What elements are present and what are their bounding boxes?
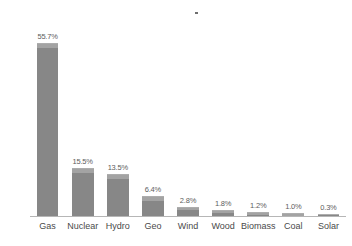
category-tick: Wind	[170, 219, 205, 233]
bar-value-label: 0.3%	[320, 203, 336, 212]
bar-slot: 1.2%	[241, 6, 276, 216]
bar-gas	[37, 43, 59, 216]
category-tick: Wood	[206, 219, 241, 233]
bar-value-label: 1.8%	[215, 199, 231, 208]
category-tick: Nuclear	[65, 219, 100, 233]
category-tick: Biomass	[241, 219, 276, 233]
category-label-wood: Wood	[206, 219, 241, 233]
bar-nuclear	[72, 168, 94, 216]
bar-slot: 55.7%	[30, 6, 65, 216]
category-tick: Hydro	[100, 219, 135, 233]
bar-column: 1.2%	[247, 201, 269, 216]
bar-column: 13.5%	[107, 163, 129, 216]
category-label-wind: Wind	[170, 219, 205, 233]
category-label-solar: Solar	[311, 219, 346, 233]
bar-slot: 0.3%	[311, 6, 346, 216]
x-axis-line	[30, 216, 346, 217]
category-label-biomass: Biomass	[241, 219, 276, 233]
bar-column: 1.0%	[282, 202, 304, 216]
bar-chart: 55.7%15.5%13.5%6.4%2.8%1.8%1.2%1.0%0.3% …	[0, 0, 352, 246]
bar-geo	[142, 196, 164, 216]
bar-value-label: 55.7%	[37, 32, 57, 41]
bar-value-label: 1.2%	[250, 201, 266, 210]
bar-column: 1.8%	[212, 199, 234, 216]
bar-value-label: 15.5%	[73, 157, 93, 166]
bar-slot: 1.0%	[276, 6, 311, 216]
bar-value-label: 13.5%	[108, 163, 128, 172]
bar-slot: 15.5%	[65, 6, 100, 216]
bar-slot: 2.8%	[170, 6, 205, 216]
bar-column: 6.4%	[142, 185, 164, 216]
bar-value-label: 1.0%	[285, 202, 301, 211]
category-label-geo: Geo	[135, 219, 170, 233]
category-tick: Geo	[135, 219, 170, 233]
bar-slot: 6.4%	[135, 6, 170, 216]
category-label-gas: Gas	[30, 219, 65, 233]
category-label-hydro: Hydro	[100, 219, 135, 233]
bar-wind	[177, 207, 199, 216]
bar-slot: 13.5%	[100, 6, 135, 216]
bar-value-label: 2.8%	[180, 196, 196, 205]
bar-column: 55.7%	[37, 32, 59, 216]
category-label-coal: Coal	[276, 219, 311, 233]
bar-value-label: 6.4%	[145, 185, 161, 194]
bar-hydro	[107, 174, 129, 216]
category-tick: Solar	[311, 219, 346, 233]
bar-slot: 1.8%	[206, 6, 241, 216]
category-axis: GasNuclearHydroGeoWindWoodBiomassCoalSol…	[30, 219, 346, 239]
bar-column: 2.8%	[177, 196, 199, 216]
category-tick: Coal	[276, 219, 311, 233]
plot-area: 55.7%15.5%13.5%6.4%2.8%1.8%1.2%1.0%0.3%	[30, 6, 346, 216]
category-tick: Gas	[30, 219, 65, 233]
bar-column: 15.5%	[72, 157, 94, 216]
category-label-nuclear: Nuclear	[65, 219, 100, 233]
scan-speck-artifact	[195, 12, 198, 14]
bar-column: 0.3%	[318, 203, 340, 216]
